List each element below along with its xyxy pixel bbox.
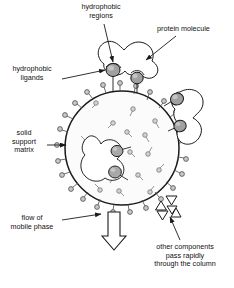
rim-ligand — [95, 199, 100, 209]
label-flow-mobile-phase: flow of mobile phase — [2, 214, 62, 231]
component-triangle — [156, 201, 167, 210]
rim-ligand — [69, 183, 78, 191]
rim-ligand — [58, 127, 68, 132]
label-hydrophobic-ligands: hydrophobic ligands — [2, 65, 62, 82]
leader-flow — [62, 214, 101, 220]
rim-ligand — [63, 113, 73, 119]
label-solid-support-line3: matrix — [2, 146, 46, 155]
label-other-components: other components pass rapidly through th… — [138, 243, 232, 269]
label-hydrophobic-regions-line2: regions — [59, 12, 143, 21]
figure-root: hydrophobic regions protein molecule hyd… — [0, 0, 234, 288]
rim-ligand — [73, 101, 82, 108]
rim-ligand — [56, 159, 66, 164]
rim-ligand — [159, 99, 166, 108]
rim-ligand — [166, 182, 175, 190]
label-other-components-line3: through the column — [138, 260, 232, 269]
rim-ligand — [118, 81, 123, 91]
rim-ligand — [155, 192, 163, 201]
label-flow-line2: mobile phase — [2, 223, 62, 232]
label-protein-molecule-text: protein molecule — [157, 25, 234, 34]
rim-ligand — [174, 170, 184, 176]
label-solid-support-matrix: solid support matrix — [2, 129, 46, 155]
leader-other-components — [170, 217, 180, 240]
label-hydrophobic-ligands-line2: ligands — [2, 74, 62, 83]
flow-arrow — [102, 212, 126, 250]
rim-ligand — [101, 83, 106, 93]
leader-hydrophobic-ligands — [62, 70, 105, 79]
label-hydrophobic-regions: hydrophobic regions — [59, 3, 143, 20]
bound-ligand-top-right — [131, 72, 143, 93]
rim-ligand — [178, 157, 188, 162]
component-triangle — [157, 211, 168, 220]
label-protein-molecule: protein molecule — [157, 25, 234, 34]
rim-ligand — [128, 204, 133, 214]
rim-ligand — [142, 200, 148, 210]
rim-ligand — [81, 192, 88, 201]
bound-ligand-top-left — [106, 64, 120, 92]
component-triangle — [166, 196, 177, 205]
rim-ligand — [85, 90, 93, 99]
rim-ligand — [60, 172, 70, 177]
